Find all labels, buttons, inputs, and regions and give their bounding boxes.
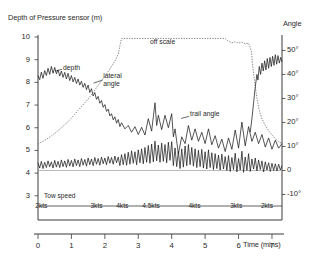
x-tick-label: 5 [197,241,213,250]
tow-speed-label: 4.5kts [139,202,163,209]
tow-speed-title: Tow speed [44,192,76,199]
y-tick-label: 7 [14,100,30,109]
x-tick-label: 0 [30,241,46,250]
y-tick-label: 4 [14,168,30,177]
annotation-leader [181,116,189,118]
series-depth [38,66,282,153]
chart-container: Depth of Pressure sensor (m) Angle Time … [0,0,318,264]
tow-speed-label: 3kts [224,202,248,209]
annotation-lateral-angle: lateral angle [103,72,122,88]
y-tick-label: 5 [14,145,30,154]
series-lateral-angle [38,38,282,144]
x-tick-label: 7 [264,241,280,250]
tow-speed-label: 4kts [182,202,206,209]
x-tick-label: 6 [231,241,247,250]
x-tick-label: 4 [164,241,180,250]
x-tick-label: 3 [130,241,146,250]
y2-tick-label: 20° [287,117,309,126]
x-tick-label: 2 [97,241,113,250]
y-tick-label: 6 [14,123,30,132]
y2-tick-label: 10° [287,141,309,150]
x-tick-label: 1 [63,241,79,250]
y-tick-label: 10 [14,32,30,41]
series-depth-rise-end [250,55,282,133]
y2-tick-label: 50° [287,45,309,54]
tow-speed-label: 3kts [84,202,108,209]
y-tick-label: 8 [14,77,30,86]
y-tick-label: 3 [14,191,30,200]
y-tick-label: 9 [14,55,30,64]
y2-tick-label: 30° [287,93,309,102]
y2-tick-label: -10° [287,189,309,198]
annotation-trail-angle: trail angle [190,110,219,118]
tow-speed-label: 4kts [110,202,134,209]
y2-tick-label: 0 [287,165,309,174]
annotation-off-scale: off scale [150,38,175,46]
tow-speed-label: 2kts [255,202,279,209]
tow-speed-label: 2kts [29,202,53,209]
annotation-depth: depth [63,64,80,72]
y2-tick-label: 40° [287,69,309,78]
